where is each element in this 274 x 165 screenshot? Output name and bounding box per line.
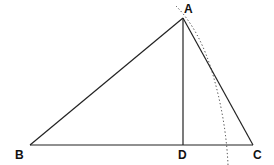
segment-ab: [30, 18, 183, 145]
segment-ac: [183, 18, 253, 145]
label-b: B: [15, 149, 24, 161]
label-a: A: [184, 3, 193, 15]
triangle-figure: [0, 0, 274, 165]
label-d: D: [178, 149, 187, 161]
label-c: C: [253, 149, 262, 161]
geometry-diagram: A B D C: [0, 0, 274, 165]
